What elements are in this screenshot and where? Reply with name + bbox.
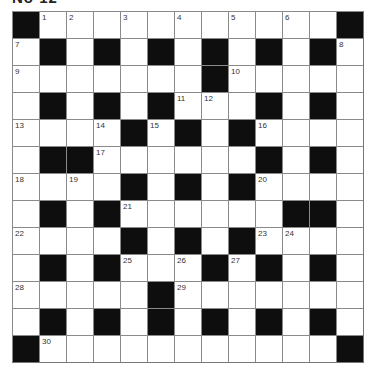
grid-cell[interactable] <box>93 335 120 362</box>
grid-cell[interactable] <box>174 335 201 362</box>
grid-cell[interactable] <box>228 281 255 308</box>
grid-cell[interactable] <box>336 200 363 227</box>
grid-cell[interactable] <box>228 92 255 119</box>
grid-cell[interactable] <box>336 92 363 119</box>
grid-cell[interactable] <box>12 254 39 281</box>
grid-cell[interactable] <box>336 281 363 308</box>
grid-cell[interactable]: 28 <box>12 281 39 308</box>
grid-cell[interactable]: 5 <box>228 11 255 38</box>
grid-cell[interactable] <box>147 173 174 200</box>
grid-cell[interactable] <box>120 146 147 173</box>
grid-cell[interactable] <box>336 227 363 254</box>
grid-cell[interactable] <box>66 308 93 335</box>
grid-cell[interactable] <box>201 200 228 227</box>
grid-cell[interactable] <box>255 281 282 308</box>
grid-cell[interactable] <box>120 38 147 65</box>
grid-cell[interactable] <box>174 65 201 92</box>
grid-cell[interactable] <box>201 146 228 173</box>
grid-cell[interactable] <box>282 146 309 173</box>
grid-cell[interactable]: 3 <box>120 11 147 38</box>
grid-cell[interactable] <box>66 227 93 254</box>
grid-cell[interactable] <box>309 173 336 200</box>
grid-cell[interactable] <box>174 308 201 335</box>
grid-cell[interactable] <box>93 65 120 92</box>
grid-cell[interactable] <box>147 335 174 362</box>
grid-cell[interactable] <box>255 200 282 227</box>
grid-cell[interactable] <box>12 92 39 119</box>
grid-cell[interactable] <box>39 173 66 200</box>
grid-cell[interactable] <box>336 254 363 281</box>
grid-cell[interactable]: 9 <box>12 65 39 92</box>
grid-cell[interactable] <box>12 200 39 227</box>
grid-cell[interactable] <box>255 335 282 362</box>
grid-cell[interactable]: 25 <box>120 254 147 281</box>
grid-cell[interactable] <box>309 281 336 308</box>
grid-cell[interactable]: 13 <box>12 119 39 146</box>
grid-cell[interactable] <box>336 146 363 173</box>
grid-cell[interactable] <box>66 335 93 362</box>
grid-cell[interactable] <box>93 11 120 38</box>
grid-cell[interactable] <box>66 281 93 308</box>
grid-cell[interactable] <box>93 281 120 308</box>
grid-cell[interactable]: 11 <box>174 92 201 119</box>
grid-cell[interactable]: 4 <box>174 11 201 38</box>
grid-cell[interactable] <box>309 119 336 146</box>
grid-cell[interactable] <box>282 335 309 362</box>
grid-cell[interactable] <box>120 92 147 119</box>
grid-cell[interactable] <box>39 65 66 92</box>
grid-cell[interactable]: 27 <box>228 254 255 281</box>
grid-cell[interactable] <box>120 281 147 308</box>
grid-cell[interactable] <box>39 281 66 308</box>
grid-cell[interactable] <box>201 281 228 308</box>
grid-cell[interactable] <box>120 335 147 362</box>
grid-cell[interactable] <box>66 65 93 92</box>
grid-cell[interactable] <box>228 308 255 335</box>
grid-cell[interactable] <box>309 11 336 38</box>
grid-cell[interactable]: 7 <box>12 38 39 65</box>
grid-cell[interactable] <box>282 92 309 119</box>
grid-cell[interactable] <box>336 119 363 146</box>
grid-cell[interactable] <box>93 227 120 254</box>
grid-cell[interactable] <box>201 227 228 254</box>
grid-cell[interactable] <box>228 200 255 227</box>
grid-cell[interactable]: 21 <box>120 200 147 227</box>
grid-cell[interactable]: 8 <box>336 38 363 65</box>
grid-cell[interactable]: 30 <box>39 335 66 362</box>
grid-cell[interactable]: 1 <box>39 11 66 38</box>
grid-cell[interactable] <box>309 227 336 254</box>
grid-cell[interactable] <box>174 200 201 227</box>
grid-cell[interactable] <box>174 146 201 173</box>
grid-cell[interactable]: 15 <box>147 119 174 146</box>
grid-cell[interactable] <box>66 200 93 227</box>
grid-cell[interactable] <box>39 227 66 254</box>
grid-cell[interactable] <box>201 11 228 38</box>
grid-cell[interactable] <box>309 335 336 362</box>
grid-cell[interactable]: 23 <box>255 227 282 254</box>
grid-cell[interactable]: 17 <box>93 146 120 173</box>
grid-cell[interactable] <box>39 119 66 146</box>
grid-cell[interactable] <box>147 65 174 92</box>
grid-cell[interactable] <box>147 146 174 173</box>
grid-cell[interactable] <box>336 173 363 200</box>
grid-cell[interactable] <box>282 281 309 308</box>
grid-cell[interactable] <box>147 200 174 227</box>
grid-cell[interactable] <box>66 254 93 281</box>
grid-cell[interactable] <box>201 335 228 362</box>
grid-cell[interactable] <box>147 254 174 281</box>
grid-cell[interactable]: 16 <box>255 119 282 146</box>
grid-cell[interactable] <box>66 38 93 65</box>
grid-cell[interactable] <box>282 308 309 335</box>
grid-cell[interactable] <box>336 65 363 92</box>
grid-cell[interactable] <box>282 38 309 65</box>
grid-cell[interactable]: 10 <box>228 65 255 92</box>
grid-cell[interactable]: 20 <box>255 173 282 200</box>
grid-cell[interactable]: 14 <box>93 119 120 146</box>
grid-cell[interactable] <box>174 38 201 65</box>
grid-cell[interactable] <box>93 173 120 200</box>
grid-cell[interactable] <box>228 38 255 65</box>
grid-cell[interactable] <box>255 11 282 38</box>
grid-cell[interactable] <box>201 119 228 146</box>
grid-cell[interactable] <box>120 308 147 335</box>
grid-cell[interactable] <box>120 65 147 92</box>
grid-cell[interactable]: 22 <box>12 227 39 254</box>
